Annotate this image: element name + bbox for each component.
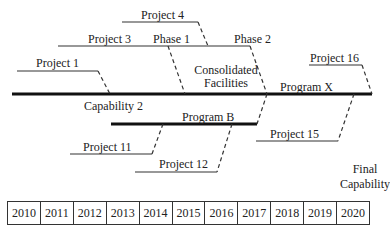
program-x-label: Program X <box>280 81 333 94</box>
program-b-connector <box>257 94 267 124</box>
project-4-label: Project 4 <box>141 9 184 22</box>
project-1-label: Project 1 <box>36 57 79 70</box>
project-1-connector <box>98 71 110 94</box>
year-cell: 2016 <box>205 202 238 225</box>
phase-1-connector <box>168 46 185 94</box>
year-cell: 2011 <box>40 202 73 225</box>
project-16-connector <box>362 65 372 94</box>
project-15-connector <box>338 94 354 141</box>
timeline-row: 2010 2011 2012 2013 2014 2015 2016 2017 … <box>8 202 370 225</box>
program-b-label: Program B <box>182 111 234 124</box>
final-line-1: Final <box>340 162 390 177</box>
consolidated-line-2: Facilities <box>186 77 266 90</box>
year-cell: 2019 <box>304 202 337 225</box>
final-capability-label: Final Capability <box>340 162 390 192</box>
project-12-label: Project 12 <box>159 158 208 171</box>
capability-2-label: Capability 2 <box>84 100 143 113</box>
year-cell: 2010 <box>8 202 41 225</box>
phase-1-label: Phase 1 <box>153 33 190 46</box>
year-cell: 2018 <box>271 202 304 225</box>
year-cell: 2013 <box>106 202 139 225</box>
year-cell: 2020 <box>337 202 370 225</box>
phase-2-label: Phase 2 <box>234 33 271 46</box>
final-line-2: Capability <box>340 177 390 192</box>
project-15-label: Project 15 <box>270 128 319 141</box>
project-4-connector <box>198 22 208 46</box>
project-12-connector <box>217 124 232 172</box>
project-3-label: Project 3 <box>88 33 131 46</box>
consolidated-facilities-label: Consolidated Facilities <box>186 64 266 90</box>
project-16-label: Project 16 <box>310 52 359 65</box>
year-cell: 2012 <box>73 202 106 225</box>
project-11-label: Project 11 <box>83 141 132 154</box>
year-cell: 2015 <box>172 202 205 225</box>
project-11-connector <box>152 124 163 154</box>
year-cell: 2017 <box>238 202 271 225</box>
timeline-table: 2010 2011 2012 2013 2014 2015 2016 2017 … <box>7 201 370 225</box>
year-cell: 2014 <box>139 202 172 225</box>
